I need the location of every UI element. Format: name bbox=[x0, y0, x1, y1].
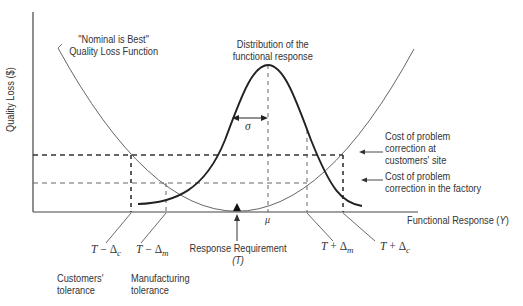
leader-t-plus-dc bbox=[343, 213, 375, 241]
manufacturing-tolerance-line1: Manufacturing bbox=[131, 272, 190, 284]
factory-cost-line1: Cost of problem bbox=[385, 170, 481, 182]
loss-function-title-line2: Quality Loss Function bbox=[63, 45, 164, 57]
subscript: m bbox=[162, 248, 169, 258]
customer-cost-pointer-head bbox=[359, 150, 365, 155]
customer-site-cost-line1: Cost of problem bbox=[385, 130, 450, 142]
response-requirement-arrowhead bbox=[234, 214, 240, 221]
distribution-title-line1: Distribution of the bbox=[231, 38, 315, 50]
mu-label: μ bbox=[265, 213, 270, 226]
x-axis-label-text: Functional Response ( bbox=[407, 214, 499, 226]
loss-function-title-line1: "Nominal is Best" bbox=[63, 33, 164, 45]
target-marker-icon bbox=[233, 203, 241, 211]
x-axis-label: Functional Response (Y) bbox=[407, 214, 509, 226]
customers-tolerance-line2: tolerance bbox=[57, 284, 103, 296]
manufacturing-tolerance-line2: tolerance bbox=[131, 284, 190, 296]
loss-function-title: "Nominal is Best" Quality Loss Function bbox=[63, 33, 164, 57]
operator: − Δ bbox=[142, 243, 162, 255]
operator: + Δ bbox=[327, 240, 347, 252]
sigma-arrow-right-head bbox=[261, 115, 268, 121]
t-plus-delta-c-label: T + Δc bbox=[380, 240, 410, 257]
subscript: c bbox=[406, 245, 410, 255]
customers-tolerance-label: Customers' tolerance bbox=[57, 272, 103, 296]
leader-t-minus-dc bbox=[106, 213, 131, 243]
leader-t-plus-dm bbox=[307, 213, 333, 241]
subscript: c bbox=[117, 248, 121, 258]
loss-label-tick bbox=[58, 44, 62, 48]
distribution-title-line2: functional response bbox=[231, 50, 315, 62]
t-minus-delta-m-label: T − Δm bbox=[136, 243, 169, 260]
t-plus-delta-m-label: T + Δm bbox=[321, 240, 354, 257]
customer-site-cost-label: Cost of problem correction at customers'… bbox=[385, 130, 450, 166]
quality-loss-curve bbox=[58, 48, 414, 211]
factory-cost-line2: correction in the factory bbox=[385, 182, 481, 194]
operator: − Δ bbox=[97, 243, 117, 255]
response-requirement-symbol: (T) bbox=[187, 254, 289, 266]
operator: + Δ bbox=[386, 240, 406, 252]
manufacturing-tolerance-label: Manufacturing tolerance bbox=[131, 272, 190, 296]
x-axis-label-close: ) bbox=[506, 214, 509, 226]
factory-cost-label: Cost of problem correction in the factor… bbox=[385, 170, 481, 194]
subscript: m bbox=[347, 245, 354, 255]
customer-site-cost-line3: customers' site bbox=[385, 154, 450, 166]
customer-site-cost-line2: correction at bbox=[385, 142, 450, 154]
t-minus-delta-c-label: T − Δc bbox=[91, 243, 121, 260]
distribution-curve bbox=[138, 65, 362, 206]
customers-tolerance-line1: Customers' bbox=[57, 272, 103, 284]
sigma-label: σ bbox=[245, 120, 251, 133]
response-requirement-text: Response Requirement bbox=[187, 242, 289, 254]
response-requirement-label: Response Requirement (T) bbox=[187, 242, 289, 266]
factory-cost-pointer-head bbox=[361, 178, 367, 183]
distribution-title: Distribution of the functional response bbox=[231, 38, 315, 62]
quality-loss-diagram: Quality Loss ($) "Nominal is Best" Quali… bbox=[0, 0, 523, 306]
y-axis-label: Quality Loss ($) bbox=[4, 67, 16, 132]
leader-t-minus-dm bbox=[141, 213, 166, 243]
